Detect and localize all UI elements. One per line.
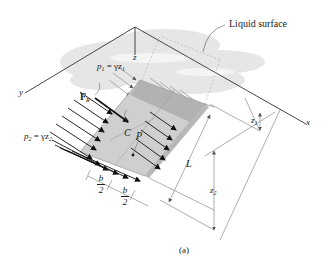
y-axis-label: y (19, 88, 23, 97)
half-width-label-2: b2 (121, 186, 129, 207)
point-p-label: P (136, 131, 142, 141)
liquid-surface-label: Liquid surface (229, 19, 287, 29)
z-axis-label: z (133, 53, 137, 62)
pressure-bottom-label: p2 = γz2 (24, 132, 52, 142)
resultant-force-label: FR (80, 92, 90, 103)
hydrostatic-plate-diagram: Liquid surface y x z p1 = γz1 p2 = γz2 F… (0, 0, 329, 269)
pressure-top-label: p1 = γz1 (97, 62, 125, 72)
depth-z1-label: z1 (251, 116, 258, 126)
length-label: L (186, 159, 192, 169)
x-axis-label: x (306, 118, 310, 127)
half-width-label-1: b2 (97, 174, 105, 195)
depth-z2-label: z2 (210, 186, 217, 196)
center-of-pressure-label: C (124, 128, 131, 138)
figure-caption: (a) (179, 246, 189, 255)
